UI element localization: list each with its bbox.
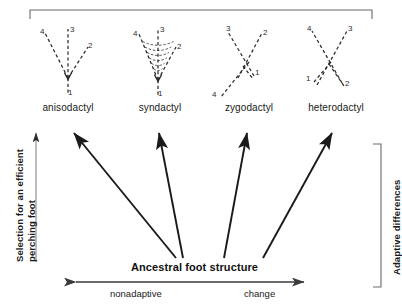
- toe-number-2-zygodactyl: 2: [263, 28, 267, 37]
- y-axis-label-line1: Selection for an efficient: [14, 149, 25, 262]
- toe-3-zygodactyl: [228, 32, 254, 76]
- x-axis-left-label: nonadaptive: [110, 288, 162, 299]
- right-bracket-label: Adaptive differences: [391, 180, 402, 275]
- toe-3-heterodactyl: [317, 31, 347, 85]
- foot-diagram-syndactyl: [139, 29, 176, 96]
- divergence-arrow-zygodactyl: [224, 133, 247, 258]
- toe-4-anisodactyl: [45, 33, 68, 78]
- divergence-arrow-syndactyl: [159, 133, 183, 258]
- toe-number-4-heterodactyl: 4: [307, 24, 311, 33]
- foot-diagram-heterodactyl: [312, 31, 347, 86]
- top-bracket: [30, 10, 372, 19]
- foot-label-zygodactyl: zygodactyl: [211, 102, 287, 113]
- toe-number-3-syndactyl: 3: [160, 25, 164, 34]
- foot-label-heterodactyl: heterodactyl: [294, 102, 378, 113]
- toe-number-1-syndactyl: 1: [158, 89, 162, 98]
- toe-number-2-heterodactyl: 2: [345, 79, 349, 88]
- toe-number-4-anisodactyl: 4: [40, 27, 44, 36]
- toe-4-zygodactyl: [221, 62, 249, 97]
- foot-diagram-zygodactyl: [221, 32, 262, 97]
- toe-number-4-zygodactyl: 4: [212, 90, 216, 99]
- toe-4-syndactyl: [139, 34, 158, 80]
- toe-number-3-zygodactyl: 3: [226, 24, 230, 33]
- x-axis-right-label: change: [244, 288, 275, 299]
- toe-number-2-anisodactyl: 2: [88, 41, 92, 50]
- right-bracket: [373, 144, 381, 287]
- divergence-arrow-heterodactyl: [263, 133, 332, 258]
- x-axis-title: Ancestral foot structure: [131, 261, 258, 273]
- toe-number-3-anisodactyl: 3: [70, 25, 74, 34]
- foot-label-anisodactyl: anisodactyl: [28, 102, 108, 113]
- toe-number-3-heterodactyl: 3: [348, 24, 352, 33]
- divergence-arrows: [74, 133, 332, 258]
- y-axis-label-line2: perching foot: [26, 200, 37, 262]
- toe-4-heterodactyl: [312, 31, 342, 83]
- foot-diagram-anisodactyl: [45, 29, 88, 95]
- toe-1-heterodactyl: [314, 62, 331, 82]
- divergence-arrow-anisodactyl: [74, 133, 176, 258]
- toe-number-1-heterodactyl: 1: [306, 74, 310, 83]
- foot-label-syndactyl: syndactyl: [126, 102, 194, 113]
- toe-number-2-syndactyl: 2: [177, 42, 181, 51]
- toe-number-1-zygodactyl: 1: [255, 68, 259, 77]
- toe-number-1-anisodactyl: 1: [68, 88, 72, 97]
- toe-number-4-syndactyl: 4: [133, 29, 137, 38]
